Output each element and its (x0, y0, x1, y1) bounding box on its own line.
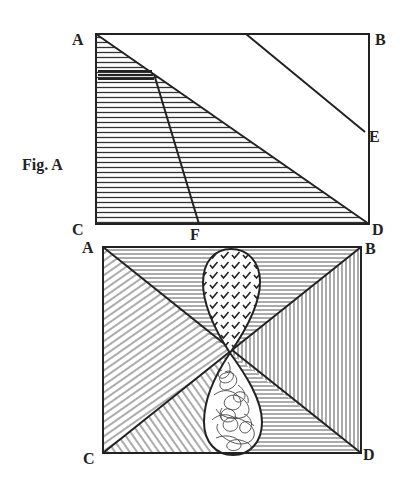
label-d: D (363, 446, 375, 463)
figure-b: A B C D (82, 239, 376, 467)
label-c: C (72, 221, 84, 238)
label-f: F (190, 226, 200, 243)
label-d: D (372, 221, 384, 238)
label-e: E (369, 128, 380, 145)
label-b: B (375, 31, 386, 48)
line-to-e (246, 34, 365, 132)
figure-a: A B E C D F Fig. A (22, 31, 386, 243)
figure-caption: Fig. A (22, 156, 63, 174)
label-a: A (82, 239, 94, 256)
diagram-canvas: A B E C D F Fig. A (0, 0, 411, 491)
label-a: A (72, 31, 84, 48)
label-c: C (83, 450, 95, 467)
label-b: B (365, 240, 376, 257)
